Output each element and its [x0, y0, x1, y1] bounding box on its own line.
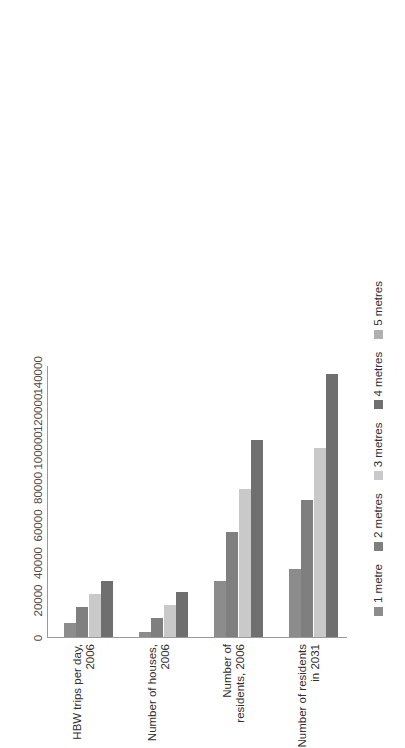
legend-item[interactable]: 1 metre — [372, 564, 384, 616]
chart-legend: 1 metre2 metres3 metres4 metres5 metres — [372, 281, 384, 616]
category-label: Number of residents, 2006 — [221, 644, 248, 748]
category-label: Number of residents in 2031 — [296, 644, 323, 748]
legend-label: 1 metre — [372, 564, 384, 603]
legend-item[interactable]: 2 metres — [372, 493, 384, 551]
bar — [214, 581, 226, 637]
bar — [164, 605, 176, 637]
tick-label: 0 — [32, 635, 44, 641]
legend-swatch-icon — [374, 401, 383, 410]
legend-label: 5 metres — [372, 281, 384, 326]
legend-label: 3 metres — [372, 423, 384, 468]
bar — [226, 532, 238, 637]
bar — [326, 374, 338, 637]
tick-label: 140000 — [32, 356, 44, 394]
legend-swatch-icon — [374, 330, 383, 339]
tick-label: 120000 — [32, 394, 44, 432]
plot-area — [47, 366, 347, 638]
legend-swatch-icon — [374, 471, 383, 480]
bar-group — [47, 366, 122, 638]
tick-label: 60000 — [32, 509, 44, 541]
bar — [76, 607, 88, 637]
bar-chart-figure: 020000400006000080000100000120000140000 … — [0, 0, 405, 748]
bar-group — [197, 366, 272, 638]
legend-item[interactable]: 4 metres — [372, 352, 384, 410]
bar-group — [122, 366, 197, 638]
tick-label: 100000 — [32, 431, 44, 469]
bar — [64, 623, 76, 637]
category-label: HBW trips per day, 2006 — [71, 644, 98, 748]
legend-item[interactable]: 5 metres — [372, 281, 384, 339]
bar — [289, 569, 301, 637]
legend-swatch-icon — [374, 607, 383, 616]
tick-label: 40000 — [32, 547, 44, 579]
bar — [101, 581, 113, 637]
bar — [139, 632, 151, 637]
legend-label: 4 metres — [372, 352, 384, 397]
bar — [314, 448, 326, 637]
legend-label: 2 metres — [372, 493, 384, 538]
bar — [251, 440, 263, 637]
category-label: Number of houses, 2006 — [146, 644, 173, 748]
tick-label: 80000 — [32, 472, 44, 504]
value-axis-tick-labels: 020000400006000080000100000120000140000 — [10, 366, 44, 638]
bar — [89, 594, 101, 637]
bar — [239, 489, 251, 637]
rotated-chart-wrapper: 020000400006000080000100000120000140000 … — [0, 0, 405, 748]
bar — [176, 592, 188, 637]
bar — [151, 618, 163, 637]
legend-swatch-icon — [374, 542, 383, 551]
bar-group — [272, 366, 347, 638]
legend-item[interactable]: 3 metres — [372, 423, 384, 481]
tick-label: 20000 — [32, 584, 44, 616]
bar — [301, 500, 313, 637]
category-axis-labels: HBW trips per day, 2006Number of houses,… — [47, 642, 347, 748]
